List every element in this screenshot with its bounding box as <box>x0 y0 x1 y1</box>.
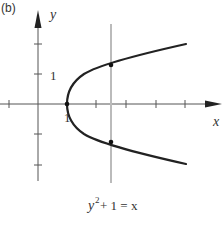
y-axis <box>34 10 42 181</box>
caption-y: y <box>86 198 95 213</box>
y-axis-arrow-icon <box>35 10 42 28</box>
x-axis-arrow-icon <box>205 101 222 108</box>
caption-exponent: 2 <box>95 195 100 205</box>
x-axis-label: x <box>212 114 220 129</box>
x-tick-label-1: 1 <box>64 110 71 125</box>
lower-intersection-point <box>109 140 114 145</box>
y-axis-label: y <box>48 7 57 22</box>
panel-label: (b) <box>1 1 16 15</box>
caption-rest: + 1 = x <box>100 198 138 213</box>
equation-caption: y 2 + 1 = x <box>86 195 138 213</box>
upper-intersection-point <box>109 63 114 68</box>
y-tick-label-1: 1 <box>50 68 57 83</box>
parabola-figure: (b) y x 1 1 y 2 + <box>0 0 222 227</box>
vertex-point <box>65 102 70 107</box>
